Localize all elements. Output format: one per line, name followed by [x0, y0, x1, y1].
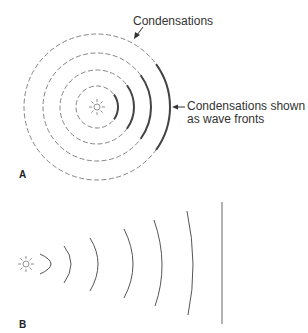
condensations-label: Condensations — [133, 15, 213, 28]
sound-source-icon — [89, 99, 105, 115]
sound-source-icon — [18, 256, 34, 272]
condensations-arrow-icon — [134, 27, 143, 39]
panel-letter-a: A — [19, 169, 26, 180]
diagram-canvas — [0, 0, 308, 333]
wave-front-arcs — [40, 211, 193, 315]
panel-a-spherical-waves — [24, 27, 185, 180]
wave-fronts-label-line2: as wave fronts — [187, 113, 264, 126]
panel-letter-b: B — [19, 319, 26, 330]
condensation-rings — [24, 34, 170, 180]
wave-fronts-arrow-icon — [172, 105, 185, 110]
sound-wave-diagram: Condensations Condensations shown as wav… — [0, 0, 308, 333]
panel-b-plane-waves — [18, 202, 222, 324]
